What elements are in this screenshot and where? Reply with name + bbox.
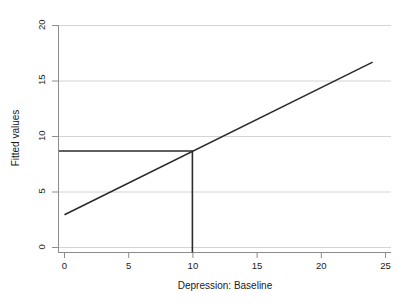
x-axis-title: Depression: Baseline [125, 281, 325, 291]
data-series [59, 62, 373, 252]
x-tick-label-0: 0 [55, 261, 75, 271]
y-tick-marks [52, 26, 58, 248]
y-tick-label-10: 10 [37, 126, 47, 146]
y-axis-title: Fitted values [11, 98, 21, 178]
axes [58, 25, 391, 253]
y-tick-label-15: 15 [37, 70, 47, 90]
x-tick-label-5: 5 [119, 261, 139, 271]
y-tick-label-20: 20 [37, 15, 47, 35]
y-tick-label-5: 5 [37, 181, 47, 201]
y-tick-label-0: 0 [37, 237, 47, 257]
x-tick-label-15: 15 [247, 261, 267, 271]
gridlines [58, 26, 391, 248]
x-tick-label-10: 10 [183, 261, 203, 271]
x-tick-marks [65, 253, 386, 259]
chart-figure: 20 15 10 5 0 0 5 10 15 20 25 Fitted valu… [0, 0, 413, 306]
x-tick-label-20: 20 [311, 261, 331, 271]
x-tick-label-25: 25 [376, 261, 396, 271]
